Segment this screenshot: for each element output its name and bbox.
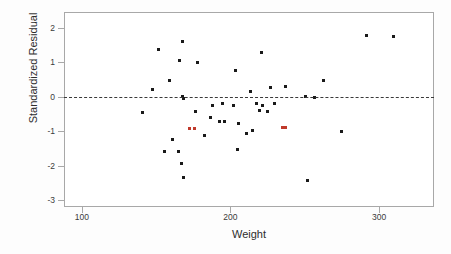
data-point — [392, 35, 395, 38]
x-tick-label: 200 — [210, 212, 250, 222]
data-point — [211, 104, 214, 107]
data-point — [322, 79, 325, 82]
y-tick-label: -1 — [33, 127, 55, 135]
data-point — [245, 132, 248, 135]
data-point — [188, 127, 191, 130]
data-point — [218, 120, 221, 123]
data-point — [180, 162, 183, 165]
y-tick-label: -3 — [33, 196, 55, 204]
data-point — [141, 111, 144, 114]
data-point — [251, 129, 254, 132]
y-tick-mark — [58, 131, 64, 132]
x-tick-label: 100 — [62, 212, 102, 222]
data-point — [236, 148, 239, 151]
data-point — [209, 116, 212, 119]
data-point — [182, 176, 185, 179]
data-point — [284, 126, 287, 129]
data-point — [196, 61, 199, 64]
y-tick-mark — [58, 97, 64, 98]
y-tick-mark — [58, 28, 64, 29]
data-point — [273, 102, 276, 105]
data-point — [168, 79, 171, 82]
data-point — [171, 138, 174, 141]
data-point — [151, 88, 154, 91]
data-point — [266, 110, 269, 113]
y-tick-label: 0 — [33, 93, 55, 101]
data-point — [232, 104, 235, 107]
x-tick-label: 300 — [359, 212, 399, 222]
y-tick-mark — [58, 200, 64, 201]
data-point — [258, 109, 261, 112]
residual-scatter-chart: Standardized Residual Weight 210-1-2-310… — [0, 0, 451, 254]
data-point — [177, 150, 180, 153]
y-tick-mark — [58, 62, 64, 63]
data-point — [284, 85, 287, 88]
data-point — [365, 34, 368, 37]
data-point — [255, 102, 258, 105]
y-axis-label: Standardized Residual — [27, 0, 39, 148]
data-point — [203, 134, 206, 137]
data-point — [194, 110, 197, 113]
x-axis-label: Weight — [64, 228, 434, 240]
data-point — [234, 69, 237, 72]
zero-reference-line — [64, 97, 434, 98]
data-point — [178, 59, 181, 62]
y-tick-label: 2 — [33, 24, 55, 32]
data-point — [261, 104, 264, 107]
data-point — [181, 40, 184, 43]
data-point — [223, 120, 226, 123]
data-point — [221, 102, 224, 105]
data-point — [163, 150, 166, 153]
data-point — [306, 179, 309, 182]
y-tick-label: 1 — [33, 58, 55, 66]
data-point — [260, 51, 263, 54]
y-tick-label: -2 — [33, 162, 55, 170]
data-point — [157, 48, 160, 51]
data-point — [340, 130, 343, 133]
data-point — [193, 127, 196, 130]
data-point — [249, 90, 252, 93]
plot-area — [64, 12, 434, 207]
data-point — [269, 86, 272, 89]
data-point — [237, 122, 240, 125]
y-tick-mark — [58, 166, 64, 167]
